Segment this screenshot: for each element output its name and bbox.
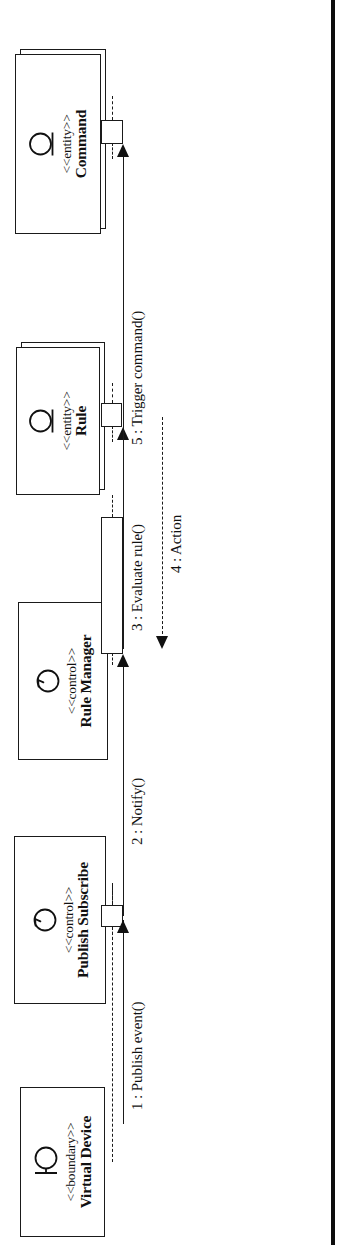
participant-name: Rule — [73, 391, 89, 450]
message-5-arrowhead — [117, 144, 129, 157]
message-5-line — [123, 151, 124, 541]
participant-box: <<control>> Publish Subscribe — [14, 836, 106, 1004]
lifeline-virtual-device — [112, 922, 113, 1162]
participant-rule-manager[interactable]: <<control>> Rule Manager — [18, 602, 108, 760]
participant-stereotype: <<control>> — [65, 635, 79, 728]
message-1-arrowhead — [117, 920, 129, 933]
message-4-line — [162, 417, 163, 639]
participant-name: Rule Manager — [78, 635, 94, 728]
message-4-label: 4 : Action — [168, 515, 185, 573]
participant-stereotype: <<entity>> — [60, 391, 74, 450]
message-2-line — [123, 661, 124, 916]
participant-name: Virtual Device — [78, 1116, 94, 1209]
participant-stereotype: <<entity>> — [60, 110, 74, 178]
sequence-diagram-canvas: <<boundary>> Virtual Device <<control>> … — [0, 0, 357, 1245]
control-icon — [32, 664, 62, 698]
diagram-page: <<boundary>> Virtual Device <<control>> … — [0, 0, 357, 1245]
participant-box: <<entity>> Command — [15, 54, 101, 234]
message-4-arrowhead — [156, 636, 168, 649]
lifeline-command — [112, 143, 113, 159]
lifeline-rule-manager-tail — [112, 495, 113, 517]
message-1-label: 1 : Publish event() — [129, 1001, 146, 1110]
lifeline-publish-subscribe-tail — [112, 883, 113, 905]
participant-command[interactable]: <<entity>> Command — [15, 54, 101, 234]
message-1-line — [123, 920, 124, 1124]
participant-label: <<control>> Publish Subscribe — [62, 862, 92, 978]
lifeline-rule — [112, 426, 113, 442]
participant-name: Publish Subscribe — [75, 862, 91, 978]
participant-label: <<boundary>> Virtual Device — [64, 1116, 94, 1209]
message-5-label: 5 : Trigger command() — [129, 311, 146, 445]
message-2-arrowhead — [117, 654, 129, 667]
activation-command — [101, 120, 123, 144]
participant-virtual-device[interactable]: <<boundary>> Virtual Device — [20, 1087, 105, 1237]
activation-rule — [101, 403, 122, 427]
participant-stereotype: <<boundary>> — [64, 1116, 78, 1209]
participant-label: <<entity>> Command — [60, 110, 90, 178]
participant-box: <<boundary>> Virtual Device — [20, 1087, 105, 1237]
activation-rule-manager — [101, 517, 123, 654]
participant-name: Command — [73, 110, 89, 178]
boundary-icon — [31, 1145, 61, 1179]
participant-label: <<entity>> Rule — [60, 391, 90, 450]
participant-stereotype: <<control>> — [62, 862, 76, 978]
lifeline-command-tail — [112, 96, 113, 120]
participant-publish-subscribe[interactable]: <<control>> Publish Subscribe — [14, 836, 106, 1004]
message-3-label: 3 : Evaluate rule() — [129, 524, 146, 631]
message-2-label: 2 : Notify() — [129, 778, 146, 845]
participant-box: <<entity>> Rule — [16, 347, 100, 495]
lifeline-rule-manager — [112, 653, 113, 665]
control-icon — [29, 903, 59, 937]
participant-box: <<control>> Rule Manager — [18, 602, 108, 760]
entity-icon — [27, 404, 57, 438]
entity-icon — [27, 127, 57, 161]
participant-label: <<control>> Rule Manager — [65, 635, 95, 728]
lifeline-rule-tail — [112, 383, 113, 403]
participant-rule[interactable]: <<entity>> Rule — [16, 347, 100, 495]
